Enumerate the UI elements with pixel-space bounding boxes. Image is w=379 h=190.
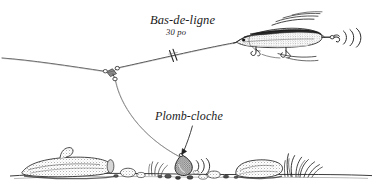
main-line xyxy=(2,58,106,72)
bell-sinker xyxy=(175,154,192,176)
leader-length-label: 30 po xyxy=(166,27,186,37)
leader-label: Bas-de-ligne xyxy=(150,13,215,28)
bottom-rock xyxy=(236,160,283,179)
three-way-swivel xyxy=(103,66,119,80)
submerged-log xyxy=(22,148,114,179)
bottom-weeds xyxy=(284,154,322,177)
illustration-canvas: Bas-de-ligne 30 po Plomb-cloche xyxy=(0,0,379,190)
arrow-down-icon xyxy=(182,126,193,154)
minnow-lure xyxy=(233,28,339,57)
fishing-rig-diagram xyxy=(0,0,379,190)
lure-vibration-arcs xyxy=(344,28,361,47)
sinker-label: Plomb-cloche xyxy=(155,109,223,124)
leader-line xyxy=(119,43,236,69)
lure-eye-icon xyxy=(242,39,245,41)
